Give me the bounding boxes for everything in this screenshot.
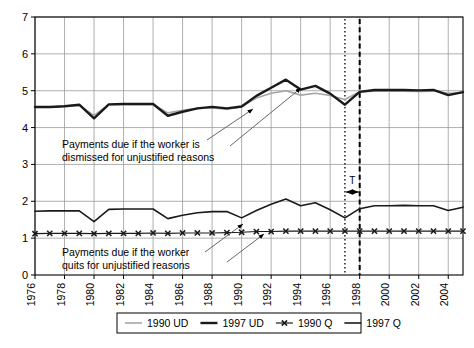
y-tick-label: 7 <box>22 11 28 23</box>
x-tick-label: 1994 <box>291 283 303 307</box>
legend-label: 1997 UD <box>222 317 264 329</box>
x-tick-label: 1998 <box>350 283 362 307</box>
x-tick-label: 2004 <box>438 283 450 307</box>
annotation-quit-note: Payments due if the workerquits for unju… <box>62 246 190 271</box>
annotation-t-label: T <box>349 175 355 186</box>
y-tick-label: 3 <box>22 158 28 170</box>
x-tick-label: 1980 <box>84 283 96 307</box>
legend-label: 1990 UD <box>147 317 189 329</box>
annotation-line: quits for unjustified reasons <box>62 259 190 271</box>
x-tick-label: 1992 <box>261 283 273 307</box>
y-tick-label: 6 <box>22 48 28 60</box>
x-tick-label: 2000 <box>379 283 391 307</box>
x-tick-label: 2002 <box>409 283 421 307</box>
annotation-line: Payments due if the worker is <box>62 138 200 150</box>
annotation-line: dismissed for unjustified reasons <box>62 151 214 163</box>
x-tick-label: 1986 <box>173 283 185 307</box>
y-tick-label: 2 <box>22 195 28 207</box>
annotation-dismissal-note: Payments due if the worker isdismissed f… <box>62 138 214 163</box>
x-tick-label: 1990 <box>232 283 244 307</box>
x-tick-label: 1996 <box>320 283 332 307</box>
legend-label: 1990 Q <box>298 317 332 329</box>
legend-label: 1997 Q <box>366 317 400 329</box>
y-tick-label: 1 <box>22 232 28 244</box>
line-chart-canvas: 01234567 1976197819801982198419861988199… <box>0 0 474 348</box>
y-tick-label: 4 <box>22 122 28 134</box>
x-tick-label: 1976 <box>25 283 37 307</box>
x-tick-label: 1984 <box>143 283 155 307</box>
chart-figure: 01234567 1976197819801982198419861988199… <box>0 0 474 348</box>
x-tick-label: 1988 <box>202 283 214 307</box>
x-tick-label: 1978 <box>55 283 67 307</box>
annotation-line: Payments due if the worker <box>62 246 190 258</box>
y-tick-label: 0 <box>22 269 28 281</box>
x-tick-label: 1982 <box>114 283 126 307</box>
y-tick-label: 5 <box>22 85 28 97</box>
chart-legend: 1990 UD1997 UD1990 Q1997 Q <box>117 313 401 333</box>
